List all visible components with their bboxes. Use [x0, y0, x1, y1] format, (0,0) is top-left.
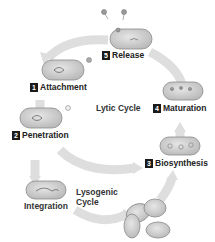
release-cell — [110, 29, 152, 49]
step-label-text: Penetration — [22, 131, 69, 140]
step-biosynthesis-label: 3 Biosynthesis — [145, 159, 208, 168]
step-number-badge: 2 — [12, 131, 20, 140]
attachment-cell — [42, 58, 92, 81]
step-maturation-label: 4 Maturation — [153, 104, 206, 113]
step-number-badge: 1 — [30, 83, 38, 92]
lytic-cycle-label: Lytic Cycle — [96, 104, 141, 114]
step-attachment-label: 1 Attachment — [30, 83, 87, 92]
lysogenic-cell-cluster — [124, 199, 170, 238]
step-number-badge: 5 — [102, 51, 110, 60]
integration-cell — [26, 181, 66, 199]
step-penetration-label: 2 Penetration — [12, 131, 69, 140]
step-label-text: Maturation — [163, 104, 206, 113]
integration-label: Integration — [24, 202, 68, 212]
lysogenic-line-2: Cycle — [76, 198, 118, 208]
lysogenic-cycle-label: Lysogenic Cycle — [76, 188, 118, 208]
maturation-cell — [163, 82, 203, 100]
step-label-text: Attachment — [40, 83, 87, 92]
penetration-cell — [20, 106, 71, 129]
biosynthesis-cell — [160, 137, 200, 155]
step-number-badge: 4 — [153, 104, 161, 113]
step-number-badge: 3 — [145, 159, 153, 168]
step-label-text: Release — [112, 51, 144, 60]
step-release-label: 5 Release — [102, 51, 144, 60]
step-label-text: Biosynthesis — [155, 159, 208, 168]
